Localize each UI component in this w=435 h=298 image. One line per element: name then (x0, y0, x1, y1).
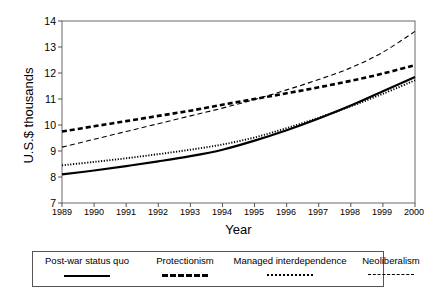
legend-label: Neoliberalism (351, 255, 431, 266)
legend: Post-war status quo Protectionism Manage… (32, 251, 384, 287)
series-line (62, 65, 415, 131)
axis-frame (62, 21, 415, 203)
legend-swatch-dotted-icon (267, 274, 313, 280)
legend-label: Managed interdependence (229, 255, 351, 266)
legend-swatch-solid-icon (64, 275, 110, 281)
legend-label: Protectionism (141, 255, 229, 266)
legend-entry-neoliberalism: Neoliberalism (351, 252, 431, 288)
legend-swatch-thin-dashed-icon (368, 274, 414, 279)
legend-entry-managed-interdependence: Managed interdependence (229, 252, 351, 288)
series-line (62, 80, 415, 165)
legend-entry-post-war-status-quo: Post-war status quo (33, 252, 141, 288)
y-tick-marks (58, 21, 62, 203)
series-line (62, 31, 415, 147)
series-group (62, 31, 415, 174)
x-tick-marks (62, 203, 415, 207)
legend-label: Post-war status quo (33, 255, 141, 266)
legend-entry-protectionism: Protectionism (141, 252, 229, 288)
chart-figure: U.S.$ thousands 14 13 12 11 10 9 8 7 198… (0, 0, 435, 298)
legend-swatch-bold-dashed-icon (162, 274, 208, 281)
